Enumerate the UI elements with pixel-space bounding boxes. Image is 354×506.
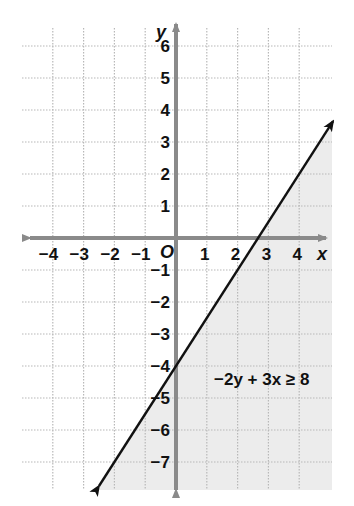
svg-text:−6: −6 [151,421,170,440]
svg-text:2: 2 [161,165,170,184]
svg-text:−2: −2 [151,293,170,312]
svg-text:−2: −2 [100,245,119,264]
svg-text:−5: −5 [151,389,170,408]
svg-text:3: 3 [161,133,170,152]
svg-text:O: O [160,242,174,262]
svg-text:3: 3 [262,245,271,264]
svg-text:2: 2 [231,245,240,264]
svg-text:1: 1 [161,197,170,216]
svg-text:−1: −1 [131,245,150,264]
svg-text:−4: −4 [151,357,171,376]
svg-text:1: 1 [200,245,209,264]
svg-text:−3: −3 [151,325,170,344]
svg-text:y: y [155,22,167,42]
svg-text:5: 5 [161,69,170,88]
svg-text:4: 4 [161,101,171,120]
svg-text:−4: −4 [39,245,59,264]
svg-text:−7: −7 [151,453,170,472]
svg-text:x: x [316,244,328,264]
inequality-graph: −4−3−2−11234654321−1−2−3−4−5−6−7Oxy −2y … [0,0,354,506]
inequality-label: −2y + 3x ≥ 8 [214,370,309,389]
svg-text:−3: −3 [70,245,89,264]
svg-text:−1: −1 [151,261,170,280]
svg-text:4: 4 [292,245,302,264]
